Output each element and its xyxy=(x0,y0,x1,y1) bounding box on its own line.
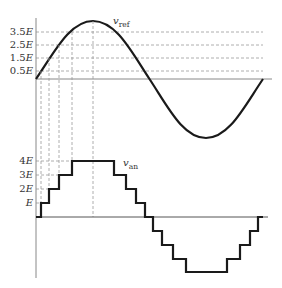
level-label-0-5e: 0.5E xyxy=(10,65,34,76)
level-label-4e: 4E xyxy=(19,155,33,166)
vref-label: vref xyxy=(113,15,131,29)
reference-level-lines xyxy=(36,32,263,71)
level-label-2-5e: 2.5E xyxy=(10,39,34,50)
level-label-3-5e: 3.5E xyxy=(10,26,34,37)
level-label-3e: 3E xyxy=(19,169,33,180)
output-level-lines xyxy=(36,161,72,203)
bottom-plot: van 4E 3E 2E E xyxy=(19,150,268,278)
crossing-guide-lines xyxy=(41,21,93,217)
level-label-e: E xyxy=(25,197,34,208)
level-label-1-5e: 1.5E xyxy=(10,52,34,63)
van-label: van xyxy=(123,157,138,171)
multilevel-modulation-diagram: vref 3.5E 2.5E 1.5E 0.5E van 4E 3E 2E E xyxy=(0,0,282,288)
level-label-2e: 2E xyxy=(19,183,33,194)
